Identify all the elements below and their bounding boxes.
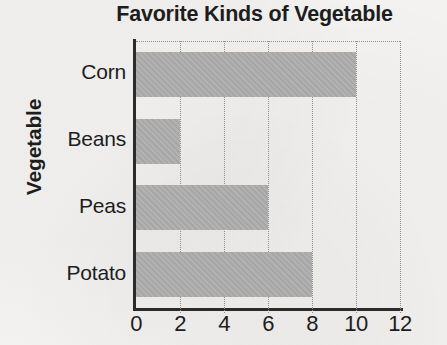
- y-axis-tick-label: Beans: [0, 127, 126, 151]
- y-axis-tick-label: Corn: [0, 60, 126, 84]
- bar-fill: [136, 185, 268, 230]
- x-axis-tick-label: 12: [377, 311, 423, 337]
- bar: [136, 185, 400, 230]
- x-axis-tick-label: 4: [201, 311, 247, 337]
- x-axis-tick-label: 0: [113, 311, 159, 337]
- bar-fill: [136, 52, 356, 97]
- chart-page: Favorite Kinds of Vegetable Vegetable Co…: [0, 0, 447, 345]
- y-axis-tick-label: Potato: [0, 261, 126, 285]
- plot-area: [136, 41, 400, 308]
- x-axis-tick-label: 10: [333, 311, 379, 337]
- bar: [136, 52, 400, 97]
- chart-title: Favorite Kinds of Vegetable: [62, 2, 447, 27]
- x-axis-tick-labels: 024681012: [136, 311, 400, 343]
- bar-fill: [136, 252, 312, 297]
- bar: [136, 119, 400, 164]
- y-axis-tick-labels: CornBeansPeasPotato: [0, 41, 130, 308]
- x-axis-tick-label: 8: [289, 311, 335, 337]
- x-axis-tick-label: 6: [245, 311, 291, 337]
- x-axis-tick-label: 2: [157, 311, 203, 337]
- y-axis-tick-label: Peas: [0, 194, 126, 218]
- bar-fill: [136, 119, 180, 164]
- bar: [136, 252, 400, 297]
- gridline-vertical: [400, 41, 401, 308]
